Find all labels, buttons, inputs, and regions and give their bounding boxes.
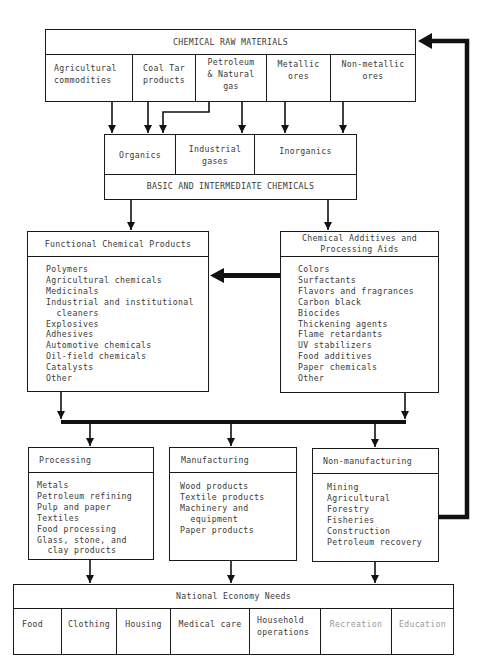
distribution-bar (61, 420, 406, 424)
feedback-loop (428, 41, 467, 517)
arrow-petroleum-organics (163, 102, 209, 133)
feedback-arrowhead (418, 33, 432, 49)
flow-arrows (0, 0, 490, 668)
arrow-additives-to-functional (210, 268, 224, 283)
